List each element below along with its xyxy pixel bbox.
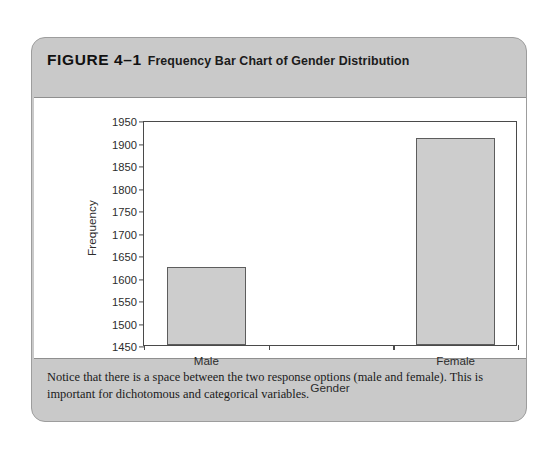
y-tick-label: 1550 xyxy=(112,296,137,308)
y-tick-label: 1500 xyxy=(112,319,137,331)
figure-box: FIGURE 4–1Frequency Bar Chart of Gender … xyxy=(31,37,527,422)
figure-footer: Notice that there is a space between the… xyxy=(32,360,526,403)
y-tick-mark xyxy=(139,144,144,145)
chart-panel: Frequency 145015001550160016501700175018… xyxy=(34,97,526,359)
figure-number: FIGURE 4–1 xyxy=(47,51,142,68)
y-tick-mark xyxy=(139,324,144,325)
y-tick-label: 1450 xyxy=(112,341,137,353)
bar-male xyxy=(167,267,246,345)
x-tick-mark xyxy=(393,345,394,350)
y-tick-label: 1850 xyxy=(112,161,137,173)
y-tick-mark xyxy=(139,301,144,302)
y-tick-label: 1650 xyxy=(112,251,137,263)
y-tick-mark xyxy=(139,234,144,235)
y-tick-mark xyxy=(139,256,144,257)
y-tick-label: 1700 xyxy=(112,229,137,241)
y-tick-label: 1800 xyxy=(112,184,137,196)
y-tick-label: 1950 xyxy=(112,116,137,128)
figure-title: Frequency Bar Chart of Gender Distributi… xyxy=(148,54,410,68)
plot-area: 1450150015501600165017001750180018501900… xyxy=(143,121,517,346)
y-tick-label: 1900 xyxy=(112,139,137,151)
x-tick-mark xyxy=(144,345,145,350)
figure-caption: Notice that there is a space between the… xyxy=(47,369,502,403)
x-tick-mark xyxy=(269,345,270,350)
y-axis-title: Frequency xyxy=(85,200,99,256)
y-tick-mark xyxy=(139,166,144,167)
x-tick-mark xyxy=(518,345,519,350)
y-tick-label: 1600 xyxy=(112,274,137,286)
y-tick-mark xyxy=(139,279,144,280)
y-tick-mark xyxy=(139,121,144,122)
y-tick-mark xyxy=(139,189,144,190)
y-tick-label: 1750 xyxy=(112,206,137,218)
y-tick-mark xyxy=(139,211,144,212)
figure-header: FIGURE 4–1Frequency Bar Chart of Gender … xyxy=(32,38,526,97)
bar-female xyxy=(416,138,495,345)
